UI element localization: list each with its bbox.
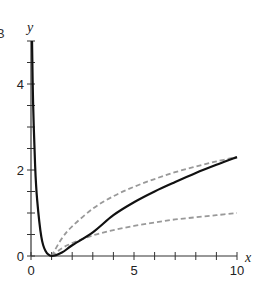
y-tick-label: 2 [17, 163, 24, 178]
dashed-curve [52, 213, 237, 256]
axes: 0510024 [17, 41, 244, 278]
x-tick-label: 5 [130, 263, 137, 278]
panel-label: B [0, 26, 5, 41]
line-chart: B 0510024 y x [0, 0, 267, 292]
solid-curve [32, 41, 237, 256]
y-tick-label: 0 [17, 249, 24, 264]
series-layer [32, 41, 237, 256]
x-tick-label: 10 [230, 263, 244, 278]
y-tick-label: 4 [17, 77, 24, 92]
x-tick-label: 0 [27, 263, 34, 278]
x-axis-label: x [244, 250, 252, 265]
y-axis-label: y [25, 20, 34, 35]
